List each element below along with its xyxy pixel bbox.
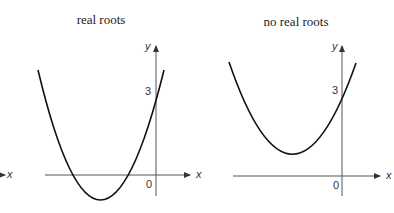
right-x-axis-label: x [386, 169, 392, 181]
right-origin-label: 0 [333, 179, 339, 191]
left-y-intercept-label: 3 [145, 85, 151, 97]
left-x-axis-label: x [196, 168, 202, 180]
edge-x-label: x [7, 168, 13, 180]
right-y-intercept-label: 3 [332, 84, 338, 96]
left-origin-label: 0 [146, 178, 152, 190]
left-y-axis-label: y [145, 40, 151, 52]
right-parabola-curve [229, 62, 356, 154]
right-panel-title: no real roots [264, 14, 329, 30]
left-panel-title: real roots [77, 12, 126, 28]
right-y-axis-label: y [332, 40, 338, 52]
